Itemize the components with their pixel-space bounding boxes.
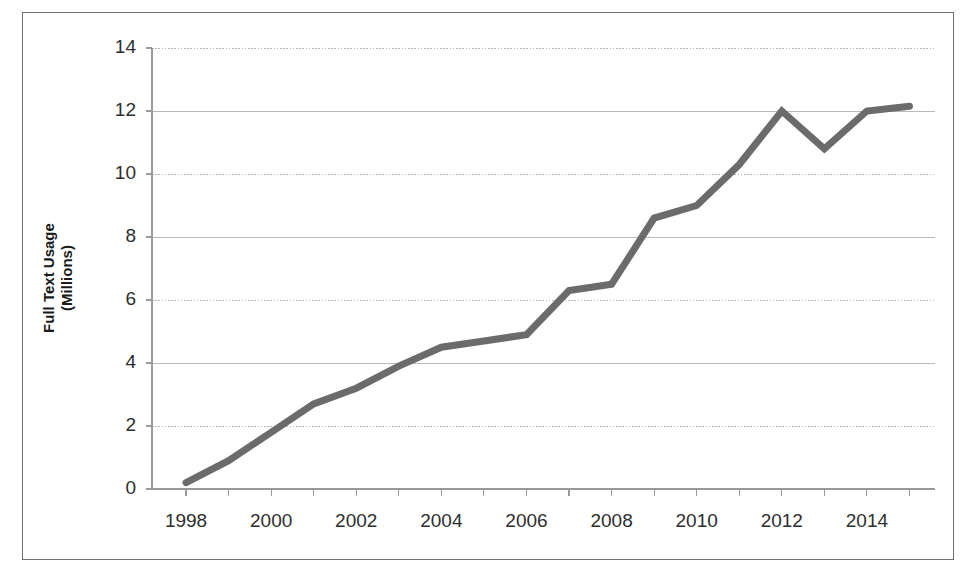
y-tick-label: 10 (96, 163, 136, 182)
series-line-full-text-usage (186, 106, 909, 482)
x-tick-label: 2002 (321, 511, 391, 530)
y-tick-label: 14 (96, 37, 136, 56)
y-tick-label: 2 (96, 415, 136, 434)
gridlines (152, 48, 935, 489)
y-axis-title-wrap: Full Text Usage (Millions) (36, 170, 80, 370)
y-axis-title-line1: Full Text Usage (40, 178, 58, 378)
line-chart: 02468101214 1998200020022004200620082010… (0, 0, 977, 577)
x-tick-label: 2014 (832, 511, 902, 530)
x-tick-label: 2010 (662, 511, 732, 530)
y-tick-label: 12 (96, 100, 136, 119)
x-tick-label: 1998 (151, 511, 221, 530)
axis-lines (152, 48, 935, 489)
y-axis-title-line2: (Millions) (58, 178, 76, 378)
x-tick-label: 2004 (406, 511, 476, 530)
y-tick-label: 6 (96, 289, 136, 308)
x-tick-label: 2006 (491, 511, 561, 530)
y-tick-label: 8 (96, 226, 136, 245)
x-tick-label: 2008 (577, 511, 647, 530)
data-series-group (186, 106, 909, 482)
chart-screenshot: 02468101214 1998200020022004200620082010… (0, 0, 977, 577)
x-tick-label: 2012 (747, 511, 817, 530)
y-tick-label: 4 (96, 352, 136, 371)
y-axis-title: Full Text Usage (Millions) (40, 178, 76, 378)
axis-ticks (146, 48, 909, 496)
plot-canvas (0, 0, 977, 577)
y-tick-label: 0 (96, 478, 136, 497)
x-tick-label: 2000 (236, 511, 306, 530)
